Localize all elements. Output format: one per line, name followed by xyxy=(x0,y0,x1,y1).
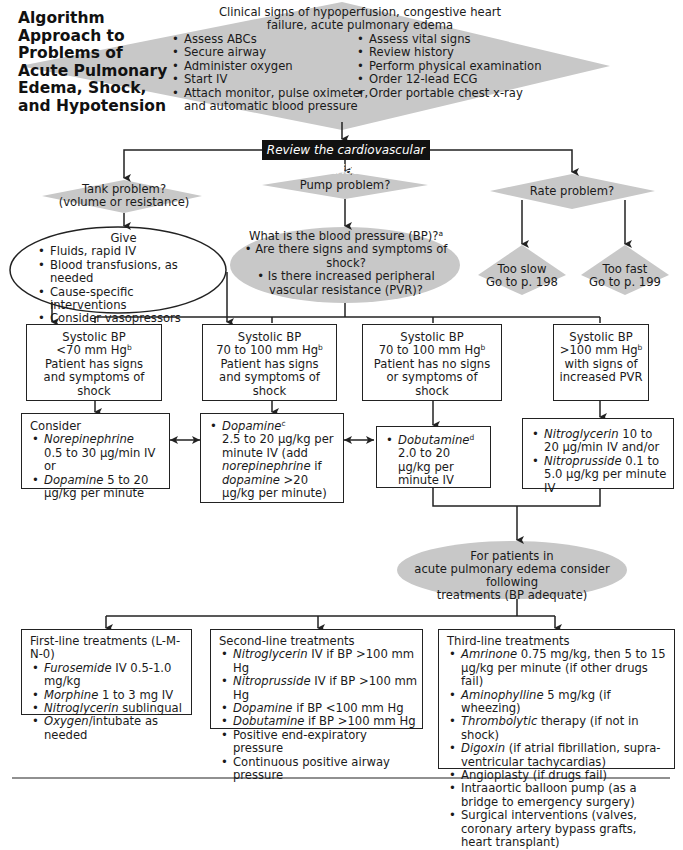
bp-box-over-100: Systolic BP >100 mm Hgb with signs of in… xyxy=(553,324,649,401)
list-item: Digoxin (if atrial fibrillation, supra-v… xyxy=(447,742,670,769)
list-item: Dopamine if BP <100 mm Hg xyxy=(219,702,418,715)
list-item: Nitroglycerin sublingual xyxy=(30,702,187,715)
review-triad-banner: Review the cardiovascular triad xyxy=(262,140,430,160)
list-item: Secure airway xyxy=(170,46,380,59)
bp-question-content: What is the blood pressure (BP)?a • Are … xyxy=(232,230,460,297)
list-item: Administer oxygen xyxy=(170,60,380,73)
tank-problem-label: Tank problem? xyxy=(54,183,194,196)
bp-question-item: • Are there signs and symptoms of shock? xyxy=(232,243,460,270)
list-item: Aminophylline 5 mg/kg (if wheezing) xyxy=(447,689,670,716)
list-item: Assess ABCs xyxy=(170,33,380,46)
list-item: Nitroglycerin IV if BP >100 mm Hg xyxy=(219,648,418,675)
bp-question-item: • Is there increased peripheral vascular… xyxy=(232,270,460,297)
list-item: Assess vital signs xyxy=(355,33,555,46)
list-item: Oxygen/intubate as needed xyxy=(30,715,187,742)
bp-box-70-100-no-shock: Systolic BP 70 to 100 mm Hgb Patient has… xyxy=(362,324,502,401)
tank-problem-diamond: Tank problem? (volume or resistance) xyxy=(54,183,194,208)
list-item: Furosemide IV 0.5-1.0 mg/kg xyxy=(30,662,187,689)
pump-problem-label: Pump problem? xyxy=(275,179,415,192)
pulm-edema-content: For patients in acute pulmonary edema co… xyxy=(397,550,627,602)
list-item: Dopaminec2.5 to 20 µg/kg per minute IV (… xyxy=(208,420,339,500)
list-item: Continuous positive airway pressure xyxy=(219,756,418,783)
list-item: Cause-specific interventions xyxy=(36,286,211,313)
list-item: Start IV xyxy=(170,73,380,86)
bp-box-under-70: Systolic BP <70 mm Hgb Patient has signs… xyxy=(26,324,162,401)
page-title: Algorithm Approach to Problems of Acute … xyxy=(18,10,178,115)
list-item: Review history xyxy=(355,46,555,59)
dopamine-box: Dopaminec2.5 to 20 µg/kg per minute IV (… xyxy=(200,413,344,503)
list-item: Fluids, rapid IV xyxy=(36,245,211,258)
list-item: Nitroglycerin 10 to 20 µg/min IV and/or xyxy=(530,428,669,455)
give-heading: Give xyxy=(36,232,211,245)
too-slow-page-link[interactable]: Go to p. 198 xyxy=(482,276,562,289)
too-slow-label: Too slow xyxy=(482,263,562,276)
second-line-treatments-box: Second-line treatments Nitroglycerin IV … xyxy=(210,629,423,729)
dobutamine-box: Dobutamined2.0 to 20 µg/kg per minute IV xyxy=(376,426,491,488)
consider-vasopressors-box: Consider Norepinephrine0.5 to 30 µg/min … xyxy=(21,413,170,489)
initial-actions-list-right: Assess vital signs Review history Perfor… xyxy=(355,33,555,100)
list-item: Morphine 1 to 3 mg IV xyxy=(30,689,187,702)
give-list: Fluids, rapid IV Blood transfusions, as … xyxy=(36,245,211,325)
list-item: Perform physical examination xyxy=(355,60,555,73)
give-ellipse-content: Give Fluids, rapid IV Blood transfusions… xyxy=(36,232,211,326)
second-line-heading: Second-line treatments xyxy=(219,635,418,648)
third-line-treatments-box: Third-line treatments Amrinone 0.75 mg/k… xyxy=(438,629,675,769)
list-item: Nitroprusside IV if BP >100 mm Hg xyxy=(219,675,418,702)
list-item: Positive end-expiratory pressure xyxy=(219,729,418,756)
list-item: Dobutamine if BP >100 mm Hg xyxy=(219,715,418,728)
too-slow-diamond[interactable]: Too slow Go to p. 198 xyxy=(482,263,562,290)
list-item: Surgical interventions (valves, coronary… xyxy=(447,809,670,849)
bp-box-70-100-shock: Systolic BP 70 to 100 mm Hgb Patient has… xyxy=(202,324,337,401)
too-fast-diamond[interactable]: Too fast Go to p. 199 xyxy=(585,263,665,290)
list-item: Intraaortic balloon pump (as a bridge to… xyxy=(447,782,670,809)
list-item: Order 12-lead ECG xyxy=(355,73,555,86)
list-item: Order portable chest x-ray xyxy=(355,87,555,100)
list-item: Dopamine 5 to 20 µg/kg per minute xyxy=(30,474,169,501)
list-item: Angioplasty (if drugs fail) xyxy=(447,769,670,782)
too-fast-label: Too fast xyxy=(585,263,665,276)
list-item: Norepinephrine0.5 to 30 µg/min IV or xyxy=(30,433,169,473)
first-line-treatments-box: First-line treatments (L-M-N-0) Furosemi… xyxy=(21,629,192,715)
first-line-heading: First-line treatments (L-M-N-0) xyxy=(30,635,187,662)
tank-problem-sublabel: (volume or resistance) xyxy=(54,196,194,209)
bp-question-heading: What is the blood pressure (BP)?a xyxy=(232,230,460,243)
list-item: Attach monitor, pulse oximeter, and auto… xyxy=(170,87,380,114)
list-item: Amrinone 0.75 mg/kg, then 5 to 15 µg/kg … xyxy=(447,648,670,688)
too-fast-page-link[interactable]: Go to p. 199 xyxy=(585,276,665,289)
list-item: Blood transfusions, as needed xyxy=(36,259,211,286)
list-item: Dobutamined2.0 to 20 µg/kg per minute IV xyxy=(384,434,486,488)
top-diamond-heading: Clinical signs of hypoperfusion, congest… xyxy=(200,6,520,33)
initial-actions-list-left: Assess ABCs Secure airway Administer oxy… xyxy=(170,33,380,113)
nitrates-box: Nitroglycerin 10 to 20 µg/min IV and/or … xyxy=(522,418,674,489)
rate-problem-label: Rate problem? xyxy=(502,185,642,198)
third-line-heading: Third-line treatments xyxy=(447,635,670,648)
list-item: Nitroprusside 0.1 to 5.0 µg/kg per minut… xyxy=(530,455,669,495)
list-item: Thrombolytic therapy (if not in shock) xyxy=(447,715,670,742)
